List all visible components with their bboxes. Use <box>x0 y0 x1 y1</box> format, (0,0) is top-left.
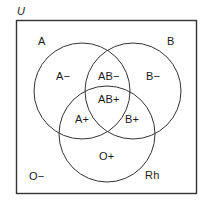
region-a-plus: A+ <box>75 114 89 125</box>
region-ab-minus: AB− <box>98 71 120 82</box>
region-o-plus: O+ <box>99 151 114 162</box>
set-label-a: A <box>38 36 46 47</box>
region-b-minus: B− <box>146 71 160 82</box>
venn-diagram-figure: U A B Rh A− AB− B− AB+ A+ B+ O+ O− <box>0 0 215 213</box>
region-o-minus: O− <box>29 171 44 182</box>
set-label-rh: Rh <box>145 170 159 181</box>
universe-label: U <box>17 6 25 17</box>
region-ab-plus: AB+ <box>98 94 120 105</box>
set-label-b: B <box>167 36 175 47</box>
region-b-plus: B+ <box>125 114 139 125</box>
region-a-minus: A− <box>56 71 70 82</box>
